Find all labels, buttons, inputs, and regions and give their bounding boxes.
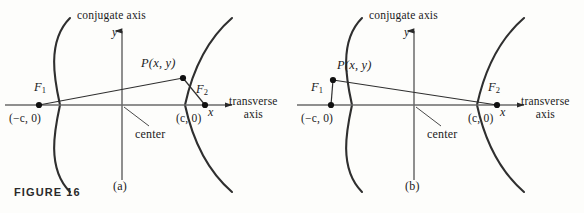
conjugate-axis-label: conjugate axis	[369, 9, 438, 21]
center-label: center	[427, 128, 458, 141]
focus-1-letter: F	[34, 80, 42, 94]
center-leader-line	[416, 107, 441, 126]
panel-a-label: (a)	[113, 180, 127, 193]
figure-caption: FIGURE 16	[14, 186, 81, 198]
x-axis-variable-label: x	[208, 106, 214, 119]
figure-16-container: conjugate axis y x transverse axis F1 (−…	[0, 0, 584, 213]
panel-b-graphics	[297, 18, 524, 192]
panel-b-label: (b)	[405, 180, 420, 193]
focus-1-point	[36, 102, 42, 108]
transverse-axis-label-line2: axis	[229, 108, 278, 121]
focus-1-label: F1	[311, 81, 323, 94]
focus-1-subscript: 1	[319, 85, 323, 95]
focal-segment-f1-p	[39, 78, 183, 105]
transverse-axis-label-line1: transverse	[521, 95, 570, 108]
y-axis-variable-label: y	[112, 26, 118, 39]
focus-2-label: F2	[488, 81, 500, 94]
focus-2-coordinate: (c, 0)	[468, 112, 493, 124]
focus-1-coordinate: (−c, 0)	[9, 112, 41, 124]
focus-1-subscript: 1	[42, 85, 46, 95]
focus-1-coordinate: (−c, 0)	[301, 112, 333, 124]
transverse-axis-label: transverse axis	[521, 95, 570, 121]
center-leader-line	[124, 107, 149, 126]
conjugate-axis-label: conjugate axis	[77, 9, 146, 21]
focus-2-subscript: 2	[204, 87, 208, 97]
focus-1-point	[328, 102, 334, 108]
point-p-label: P(x, y)	[141, 57, 176, 70]
panel-a-graphics	[5, 18, 232, 192]
x-axis-variable-label: x	[500, 106, 506, 119]
hyperbola-diagram-svg	[0, 0, 584, 213]
point-p-marker	[180, 75, 186, 81]
focus-1-letter: F	[311, 80, 319, 94]
focus-1-label: F1	[34, 81, 46, 94]
point-p-marker	[330, 77, 336, 83]
point-p-label: P(x, y)	[337, 59, 372, 72]
focus-2-coordinate: (c, 0)	[176, 112, 201, 124]
focus-2-subscript: 2	[496, 85, 500, 95]
transverse-axis-label-line1: transverse	[229, 95, 278, 108]
focal-segment-f1-p	[331, 80, 333, 105]
focus-2-label: F2	[196, 83, 208, 96]
focal-segment-f2-p	[333, 80, 497, 105]
transverse-axis-label: transverse axis	[229, 95, 278, 121]
focus-2-letter: F	[196, 82, 204, 96]
transverse-axis-label-line2: axis	[521, 108, 570, 121]
focus-2-letter: F	[488, 80, 496, 94]
y-axis-variable-label: y	[404, 26, 410, 39]
center-label: center	[135, 128, 166, 141]
